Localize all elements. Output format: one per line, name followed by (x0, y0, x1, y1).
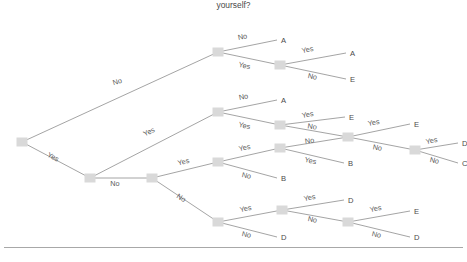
edge-label-no: No (238, 91, 249, 102)
edge-label-no: No (371, 229, 382, 240)
edge-label-no: No (372, 142, 383, 152)
edge-label-no: No (307, 214, 318, 225)
edge-label-no: No (429, 155, 440, 166)
edge-label-no: No (241, 229, 252, 240)
decision-node (343, 218, 354, 227)
leaf-label: D (348, 196, 354, 205)
decision-tree-svg: NoYesNoYesYesNoYesNoNoYesYesNoYesNoYesNo… (0, 0, 467, 262)
edge-label-no: No (110, 179, 119, 188)
tree-edge (90, 112, 218, 178)
tree-edge (280, 53, 346, 65)
leaf-label: B (348, 159, 353, 168)
edge-label-yes: Yes (239, 203, 253, 214)
edge-label-yes: Yes (425, 135, 439, 146)
edge-label-yes: Yes (367, 117, 381, 128)
decision-node (213, 158, 224, 167)
leaf-label: E (350, 75, 355, 84)
edge-label-yes: Yes (303, 192, 317, 203)
edge-label-yes: Yes (304, 155, 318, 166)
tree-edge (282, 200, 344, 210)
tree-edge (348, 211, 410, 222)
leaf-label: A (281, 36, 287, 45)
decision-node (410, 146, 421, 155)
edge-label-no: No (307, 71, 318, 82)
decision-node (85, 174, 96, 183)
leaf-label: A (281, 96, 287, 105)
edge-label-no: No (237, 31, 248, 42)
decision-node (275, 61, 286, 70)
edge-label-yes: Yes (238, 120, 252, 131)
decision-node (17, 138, 28, 147)
edge-label-yes: Yes (177, 156, 191, 168)
tree-edge (22, 52, 218, 142)
edge-label-yes: Yes (301, 109, 315, 120)
decision-node (343, 133, 354, 142)
footer-divider (4, 247, 463, 248)
edge-label-no: No (112, 76, 123, 87)
edge-label-yes: Yes (238, 142, 252, 153)
decision-node (275, 121, 286, 130)
leaf-label: D (281, 233, 287, 242)
decision-node (147, 174, 158, 183)
leaf-label: E (414, 120, 419, 129)
edge-label-no: No (304, 135, 314, 145)
leaf-label: D (414, 233, 420, 242)
decision-node (213, 218, 224, 227)
edge-label-yes: Yes (301, 44, 315, 55)
edge-labels-group: NoYesNoYesYesNoYesNoNoYesYesNoYesNoYesNo… (46, 31, 440, 240)
edge-label-yes: Yes (369, 203, 383, 214)
leaf-label: E (349, 113, 354, 122)
leaf-label: D (462, 139, 467, 148)
edge-label-no: No (307, 121, 317, 131)
leaf-label: A (350, 49, 356, 58)
nodes-group (17, 48, 421, 227)
leaf-label: C (462, 159, 467, 168)
tree-edge (218, 100, 277, 112)
edge-label-yes: Yes (238, 60, 252, 71)
edge-label-no: No (175, 192, 188, 205)
decision-node (213, 48, 224, 57)
decision-node (275, 144, 286, 153)
edge-label-no: No (241, 170, 252, 181)
decision-tree-figure: yourself? NoYesNoYesYesNoYesNoNoYesYesNo… (0, 0, 467, 262)
decision-node (213, 108, 224, 117)
tree-edge (218, 40, 277, 52)
leaf-label: B (281, 174, 286, 183)
leaf-label: E (414, 207, 419, 216)
decision-node (277, 206, 288, 215)
edge-label-yes: Yes (142, 125, 157, 138)
